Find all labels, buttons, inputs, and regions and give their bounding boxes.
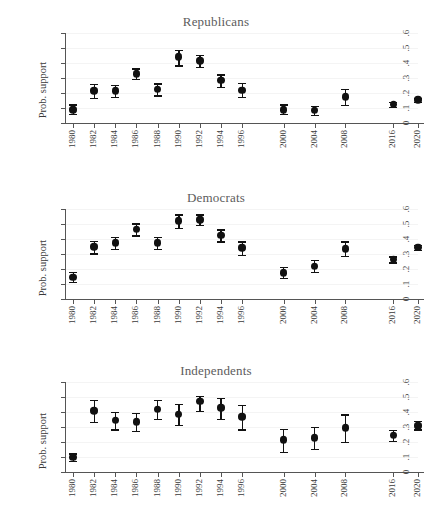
x-axis-tick	[345, 472, 346, 477]
data-point-marker	[342, 245, 350, 253]
y-axis-tick-label: .1	[402, 105, 411, 112]
data-point-marker	[112, 239, 120, 247]
x-axis-tick	[242, 299, 243, 304]
data-point-marker	[90, 87, 98, 95]
x-axis-tick-label: 1996	[237, 306, 246, 324]
x-axis-tick	[73, 299, 74, 304]
error-bar-cap-lower	[69, 461, 77, 462]
y-axis-tick-label: .5	[402, 394, 411, 401]
y-axis-tick-label: .2	[402, 266, 411, 273]
x-axis-tick	[221, 299, 222, 304]
y-axis-tick-label: .4	[402, 409, 411, 416]
y-axis-tick-label: .6	[402, 206, 411, 213]
error-bar-cap-lower	[238, 255, 246, 256]
x-axis-tick	[221, 123, 222, 128]
x-axis-tick-label: 1988	[153, 306, 162, 324]
error-bar-cap-upper	[196, 55, 204, 56]
y-axis-tick	[61, 254, 66, 255]
data-point-marker	[217, 404, 225, 412]
panel-title-independents: Independents	[0, 363, 432, 379]
error-bar-cap-lower	[154, 95, 162, 96]
x-axis-tick	[345, 123, 346, 128]
data-point-marker	[390, 432, 398, 440]
error-bar-cap-upper	[111, 412, 119, 413]
x-axis-tick-label: 2016	[388, 130, 397, 148]
x-axis-tick-label: 1980	[68, 479, 77, 497]
x-axis-tick	[136, 299, 137, 304]
data-point-marker	[311, 434, 319, 442]
error-bar-cap-lower	[280, 114, 288, 115]
error-bar-cap-lower	[217, 419, 225, 420]
error-bar-cap-upper	[311, 427, 319, 428]
x-axis-tick-label: 2020	[413, 130, 422, 148]
data-point-marker	[154, 86, 162, 94]
data-point-marker	[133, 70, 141, 78]
error-bar-cap-upper	[111, 237, 119, 238]
error-bar-cap-lower	[175, 228, 183, 229]
error-bar-cap-upper	[238, 405, 246, 406]
y-axis-tick	[61, 33, 66, 34]
data-point-marker	[112, 417, 120, 425]
y-axis-tick	[61, 239, 66, 240]
data-point-marker	[390, 101, 398, 109]
gridline	[66, 442, 418, 443]
error-bar-cap-lower	[238, 429, 246, 430]
panel-title-democrats: Democrats	[0, 190, 432, 206]
x-axis-tick	[200, 299, 201, 304]
data-point-marker	[90, 407, 98, 415]
x-axis-tick-label: 1996	[237, 130, 246, 148]
x-axis-tick	[418, 472, 419, 477]
gridline	[66, 63, 418, 64]
data-point-marker	[311, 262, 319, 270]
x-axis-tick	[179, 123, 180, 128]
y-axis-tick	[61, 412, 66, 413]
error-bar-cap-lower	[175, 65, 183, 66]
y-axis-tick	[61, 427, 66, 428]
x-axis-tick-label: 2020	[413, 479, 422, 497]
data-point-marker	[238, 413, 246, 421]
error-bar-cap-lower	[90, 253, 98, 254]
y-axis-tick-label: .5	[402, 221, 411, 228]
error-bar-cap-upper	[341, 414, 349, 415]
data-point-marker	[217, 232, 225, 240]
x-axis-tick-label: 1990	[174, 130, 183, 148]
error-bar-cap-lower	[132, 431, 140, 432]
x-axis-tick-label: 1988	[153, 130, 162, 148]
gridline	[66, 33, 418, 34]
x-axis-tick-label: 1990	[174, 479, 183, 497]
x-axis-tick-label: 1994	[216, 306, 225, 324]
panel-republicans: Republicans Prob. support 0.1.2.3.4.5.61…	[0, 0, 432, 180]
error-bar-cap-upper	[154, 83, 162, 84]
x-axis-tick-label: 1982	[89, 306, 98, 324]
data-point-marker	[390, 256, 398, 264]
data-point-marker	[175, 53, 183, 61]
y-axis-tick-label: .2	[402, 439, 411, 446]
y-axis-tick-label: .1	[402, 281, 411, 288]
data-point-marker	[196, 216, 204, 224]
y-axis-tick-label: .2	[402, 90, 411, 97]
plot-area-republicans: 0.1.2.3.4.5.6198019821984198619881990199…	[66, 33, 418, 123]
error-bar-cap-lower	[311, 449, 319, 450]
x-axis-tick-label: 1984	[110, 479, 119, 497]
x-axis-tick-label: 1984	[110, 306, 119, 324]
error-bar-cap-upper	[175, 214, 183, 215]
data-point-marker	[133, 418, 141, 426]
x-axis-tick-label: 1996	[237, 479, 246, 497]
x-axis-tick	[94, 472, 95, 477]
x-axis-line	[65, 299, 424, 300]
panel-title-republicans: Republicans	[0, 14, 432, 30]
error-bar-cap-upper	[175, 50, 183, 51]
error-bar-cap-upper	[90, 241, 98, 242]
panel-independents: Independents Prob. support 0.1.2.3.4.5.6…	[0, 355, 432, 527]
y-axis-tick	[61, 209, 66, 210]
x-axis-tick	[315, 299, 316, 304]
error-bar-cap-upper	[311, 260, 319, 261]
error-bar-cap-lower	[217, 241, 225, 242]
y-axis-tick	[61, 472, 66, 473]
y-axis-tick-label: 0	[402, 121, 411, 126]
x-axis-tick	[94, 123, 95, 128]
y-axis-title-independents: Prob. support	[37, 413, 48, 470]
x-axis-tick	[242, 472, 243, 477]
x-axis-tick-label: 2000	[279, 306, 288, 324]
error-bar-cap-lower	[132, 79, 140, 80]
